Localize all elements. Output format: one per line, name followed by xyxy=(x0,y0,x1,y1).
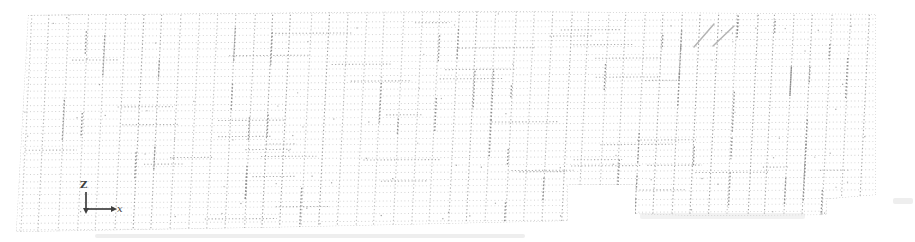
fem-mesh-figure: Z x xyxy=(0,0,915,242)
z-axis-arrowhead-icon xyxy=(83,208,89,214)
axis-x-label: x xyxy=(117,203,123,214)
mesh-canvas xyxy=(0,0,915,242)
axis-z-label: Z xyxy=(80,179,87,190)
